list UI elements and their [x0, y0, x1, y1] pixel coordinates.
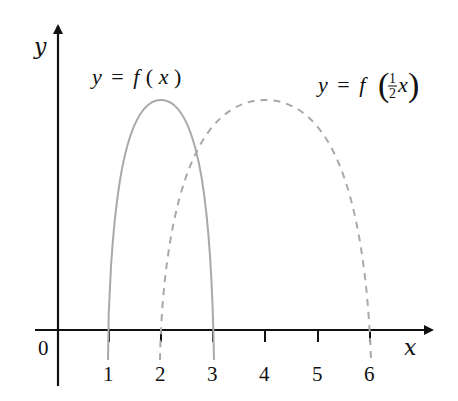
tick-label-1: 1: [103, 362, 114, 386]
label-fh-close: ): [408, 66, 419, 104]
y-axis-label: y: [33, 34, 47, 59]
svg-text:y = f (: y = f ( x ): [90, 64, 181, 89]
label-f-lhs: y: [90, 64, 102, 89]
tick-label-4: 4: [259, 362, 270, 386]
label-fh-arg: x: [397, 72, 408, 97]
label-fh-open: (: [378, 66, 389, 104]
svg-text:y = f: y = f: [316, 72, 368, 97]
tick-label-6: 6: [364, 362, 375, 386]
label-f-arg: x: [158, 64, 169, 89]
label-fh-fn: f: [359, 72, 368, 97]
label-fh-den: 2: [389, 86, 396, 101]
label-fh-eq: =: [337, 72, 349, 97]
label-fh-num: 1: [389, 71, 396, 86]
label-f-close: ): [174, 64, 181, 89]
label-f-fn: f: [133, 64, 142, 89]
label-fh-lhs: y: [316, 72, 328, 97]
label-f-eq: =: [111, 64, 123, 89]
origin-label: 0: [38, 336, 49, 360]
graph-figure: y x 0 1 2 3 4 5 6 y = f ( x ) y = f ( 1 …: [0, 0, 458, 401]
x-axis-ticks: [109, 330, 370, 342]
tick-label-3: 3: [207, 362, 218, 386]
x-axis-label: x: [404, 335, 417, 360]
tick-label-5: 5: [312, 362, 323, 386]
label-f: y = f ( x ): [90, 64, 181, 89]
label-f-open: (: [146, 64, 153, 89]
label-f-half: y = f ( 1 2 x ): [316, 66, 419, 104]
tick-label-2: 2: [155, 362, 166, 386]
